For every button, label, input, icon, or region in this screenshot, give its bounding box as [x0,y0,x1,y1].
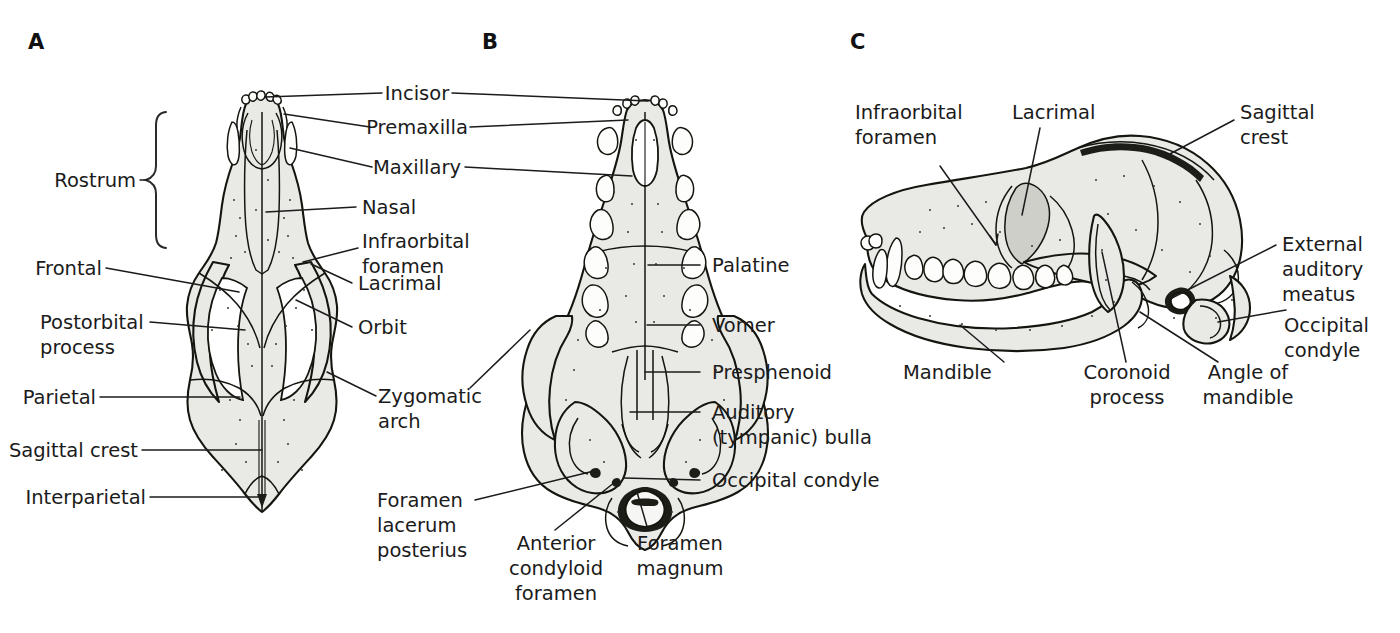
label-foramen-magnum-line1: Foramen [624,531,736,556]
label-external-auditory-meatus-line1: External [1282,232,1363,257]
label-auditory-bulla-line1: Auditory [712,400,795,425]
label-foramen-lacerum-line2: lacerum [377,513,456,538]
label-angle-of-mandible-line1: Angle of [1186,360,1310,385]
label-maxillary: Maxillary [336,155,498,180]
panel-letter-b: B [482,30,498,54]
label-foramen-lacerum-line3: posterius [377,538,467,563]
label-external-auditory-meatus-line2: auditory [1282,257,1363,282]
label-auditory-bulla-line2: (tympanic) bulla [712,425,872,450]
label-zygomatic-arch-line2: arch [378,409,421,434]
label-infraorbital-foramen-c-line1: Infraorbital [855,100,963,125]
label-occipital-condyle-b: Occipital condyle [712,468,880,493]
label-mandible: Mandible [903,360,992,385]
label-anterior-condyloid-line3: foramen [495,581,617,606]
label-foramen-lacerum-line1: Foramen [377,488,463,513]
rostrum-brace [146,112,166,248]
label-postorbital-process-line2: process [40,335,115,360]
label-infraorbital-foramen-a-line1: Infraorbital [362,229,470,254]
panel-letter-a: A [28,30,44,54]
label-anterior-condyloid-line1: Anterior [495,531,617,556]
label-external-auditory-meatus-line3: meatus [1282,282,1355,307]
label-occipital-condyle-c-line1: Occipital [1284,313,1369,338]
label-orbit: Orbit [358,315,407,340]
label-palatine: Palatine [712,253,790,278]
label-vomer: Vomer [712,313,775,338]
label-presphenoid: Presphenoid [712,360,832,385]
leader-sagittal-crest-c [1166,120,1234,156]
label-lacrimal-c: Lacrimal [1012,100,1095,125]
panel-c-skull-lateral [860,136,1250,351]
label-sagittal-crest-a: Sagittal crest [0,438,138,463]
label-coronoid-process-line1: Coronoid [1068,360,1186,385]
label-frontal: Frontal [0,256,102,281]
label-rostrum: Rostrum [0,168,136,193]
label-lacrimal-a: Lacrimal [358,271,441,296]
label-foramen-magnum-line2: magnum [624,556,736,581]
skull-anatomy-figure: A B C Rostrum Frontal Postorbital proces… [0,0,1400,633]
label-angle-of-mandible-line2: mandible [1186,385,1310,410]
label-incisor: Incisor [338,81,496,106]
label-parietal: Parietal [0,385,96,410]
label-sagittal-crest-c-line1: Sagittal [1240,100,1315,125]
label-premaxilla: Premaxilla [330,115,504,140]
label-infraorbital-foramen-c-line2: foramen [855,125,937,150]
label-postorbital-process-line1: Postorbital [40,310,144,335]
label-interparietal: Interparietal [0,485,146,510]
label-nasal: Nasal [362,195,416,220]
leader-zygomatic-b [470,330,530,388]
label-sagittal-crest-c-line2: crest [1240,125,1288,150]
label-coronoid-process-line2: process [1068,385,1186,410]
label-zygomatic-arch-line1: Zygomatic [378,384,482,409]
panel-letter-c: C [850,30,865,54]
label-anterior-condyloid-line2: condyloid [495,556,617,581]
